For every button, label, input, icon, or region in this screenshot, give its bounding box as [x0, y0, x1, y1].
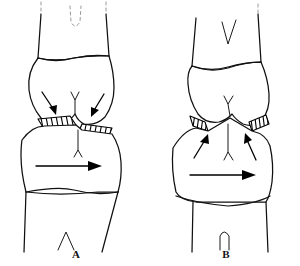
panel-a-faded-top-contours [41, 2, 106, 26]
anatomical-figure: A [0, 0, 300, 266]
panel-a-label: A [72, 248, 80, 260]
panel-a-femur-condyles [29, 56, 114, 125]
panel-a: A [21, 2, 121, 260]
figure-root: A [0, 0, 300, 266]
panel-b-femur-condyles [188, 62, 269, 125]
panel-b-tibia-plateau [172, 118, 272, 202]
panel-b-label: B [222, 248, 230, 260]
panel-b-tibia-shaft [176, 196, 270, 252]
panel-a-femur-shaft [38, 14, 109, 58]
panel-b-top-notch [222, 20, 236, 44]
panel-a-tibia-plateau [21, 125, 121, 194]
panel-b: B [172, 4, 272, 260]
